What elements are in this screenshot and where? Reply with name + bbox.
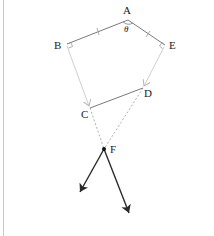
segment-bc: [67, 46, 89, 106]
segment-cf-dashed: [90, 108, 104, 149]
label-theta: θ: [124, 24, 129, 34]
label-b: B: [54, 39, 61, 51]
label-f: F: [110, 143, 116, 155]
segment-ed: [144, 47, 164, 86]
diagram-frame: A B E D C F θ: [0, 0, 214, 236]
segment-df-dashed: [104, 88, 143, 149]
label-d: D: [144, 87, 152, 99]
geometry-diagram: A B E D C F θ: [0, 0, 214, 236]
segment-ba: [67, 20, 128, 44]
force-arrow-left: [80, 149, 104, 192]
segment-ae: [128, 20, 165, 45]
point-f-dot: [102, 147, 106, 151]
segment-cd: [90, 88, 143, 108]
label-a: A: [123, 4, 131, 16]
label-e: E: [169, 39, 176, 51]
force-arrow-right: [104, 149, 129, 213]
label-c: C: [81, 108, 88, 120]
